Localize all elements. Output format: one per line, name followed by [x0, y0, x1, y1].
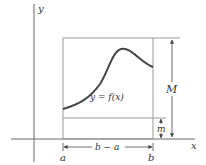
- x-axis-label: x: [191, 140, 197, 151]
- diagram-canvas: y x y = f(x) M m b − a a b: [0, 0, 206, 165]
- width-label: b − a: [95, 142, 119, 152]
- a-label: a: [60, 152, 66, 163]
- upper-bound-rectangle: [63, 38, 153, 139]
- y-axis-label: y: [37, 3, 44, 14]
- bounding-rectangle-diagram: y x y = f(x) M m b − a a b: [0, 0, 206, 165]
- m-label: m: [157, 124, 166, 134]
- curve-label: y = f(x): [89, 92, 124, 102]
- M-label: M: [165, 83, 178, 96]
- b-label: b: [148, 152, 154, 163]
